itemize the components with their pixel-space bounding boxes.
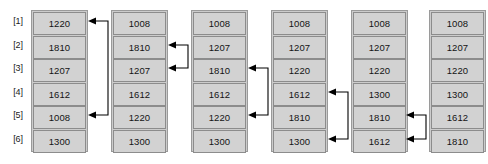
array-cell: 1612 [193,83,246,106]
array-cell: 1207 [193,36,246,59]
array-cell: 1220 [33,12,86,35]
array-cell: 1220 [431,59,484,82]
index-label-3: [3] [7,57,29,81]
array-cell: 1008 [431,12,484,35]
array-cell: 1207 [273,36,326,59]
array-cell: 1220 [113,106,166,129]
array-cell: 1300 [113,130,166,153]
array-cell: 1008 [273,12,326,35]
swap-arrow-1-5 [88,10,111,142]
index-label-column: [1] [2] [3] [4] [5] [6] [7,10,29,152]
array-cell: 1008 [33,106,86,129]
array-cell: 1008 [193,12,246,35]
array-cell: 1810 [33,36,86,59]
array-cell: 1300 [193,130,246,153]
array-column-5: 1008 1207 1220 1300 1810 1612 [351,10,408,152]
array-column-1: 1220 1810 1207 1612 1008 1300 [31,10,88,152]
array-cell: 1220 [193,106,246,129]
array-cell: 1810 [353,106,406,129]
array-cell: 1810 [193,59,246,82]
array-cell: 1810 [113,36,166,59]
array-cell: 1300 [33,130,86,153]
index-label-5: [5] [7,104,29,128]
array-cell: 1612 [113,83,166,106]
array-cell: 1220 [273,59,326,82]
selection-sort-diagram: [1] [2] [3] [4] [5] [6] 1220 1810 1207 1… [0,0,488,164]
array-column-6: 1008 1207 1220 1300 1612 1810 [429,10,486,152]
array-cell: 1300 [273,130,326,153]
array-cell: 1008 [113,12,166,35]
array-cell: 1810 [273,106,326,129]
array-cell: 1612 [33,83,86,106]
array-cell: 1008 [353,12,406,35]
array-column-4: 1008 1207 1220 1612 1810 1300 [271,10,328,152]
index-label-4: [4] [7,81,29,105]
array-cell: 1220 [353,59,406,82]
array-cell: 1612 [353,130,406,153]
index-label-2: [2] [7,34,29,58]
array-cell: 1207 [431,36,484,59]
array-cell: 1612 [273,83,326,106]
swap-arrow-3-5 [248,10,271,142]
array-cell: 1207 [113,59,166,82]
swap-arrow-2-3 [168,10,191,142]
index-label-1: [1] [7,10,29,34]
swap-arrow-4-6 [328,10,351,142]
array-cell: 1300 [353,83,406,106]
array-cell: 1612 [431,106,484,129]
array-cell: 1207 [353,36,406,59]
index-label-6: [6] [7,128,29,152]
array-column-3: 1008 1207 1810 1612 1220 1300 [191,10,248,152]
array-column-2: 1008 1810 1207 1612 1220 1300 [111,10,168,152]
swap-arrow-5-6 [406,10,429,142]
array-cell: 1207 [33,59,86,82]
array-cell: 1810 [431,130,484,153]
array-cell: 1300 [431,83,484,106]
